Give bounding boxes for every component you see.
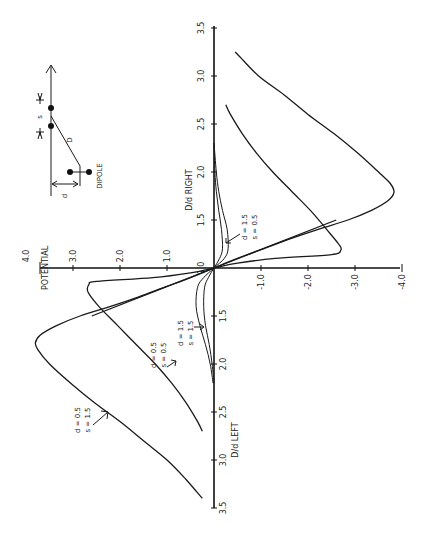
tick-label-potential: -4.0 xyxy=(398,274,407,290)
tick-label-left: 3.0 xyxy=(219,454,228,467)
tick-label-potential: 4.0 xyxy=(22,250,31,263)
tick-label-left: 2.5 xyxy=(219,406,228,419)
annotation-d05-s05: d = 0.5 s = 0.5 xyxy=(150,342,176,368)
tick-label-potential: 1.0 xyxy=(163,250,172,263)
right-axis-label: D/d RIGHT xyxy=(185,169,194,211)
svg-text:D: D xyxy=(66,137,74,142)
tick-label-potential: 3.0 xyxy=(69,250,78,263)
tick-label-left: 1.5 xyxy=(219,310,228,323)
tick-label-potential: -2.0 xyxy=(304,274,313,290)
tick-label-right: 1.5 xyxy=(197,214,206,227)
svg-text:s = 0.5: s = 0.5 xyxy=(160,342,168,367)
svg-text:s: s xyxy=(36,115,44,119)
svg-text:d = 1.5: d = 1.5 xyxy=(241,214,249,240)
svg-text:d = 1.5: d = 1.5 xyxy=(177,320,185,346)
tick-label-right: 3.0 xyxy=(197,70,206,83)
tick-label-left: 3.5 xyxy=(219,502,228,515)
svg-text:d = 0.5: d = 0.5 xyxy=(74,407,82,433)
tick-label-potential: 2.0 xyxy=(116,250,125,263)
svg-text:DIPOLE: DIPOLE xyxy=(96,163,104,189)
svg-text:d: d xyxy=(61,194,69,198)
tick-label-potential: -3.0 xyxy=(351,274,360,290)
left-axis-label: D/d LEFT xyxy=(231,422,240,457)
potential-axis-label: POTENTIAL xyxy=(41,245,50,290)
svg-text:d = 0.5: d = 0.5 xyxy=(150,342,158,368)
potential-chart: 1.01.52.02.53.03.51.52.02.53.03.54.03.02… xyxy=(0,0,424,534)
tick-label-left: 2.0 xyxy=(219,358,228,371)
tick-label-right: 3.5 xyxy=(197,22,206,35)
svg-text:s = 1.5: s = 1.5 xyxy=(187,320,195,345)
dipole-inset: s D d DIPOLE xyxy=(36,65,104,198)
tick-label-right: 2.5 xyxy=(197,118,206,131)
svg-text:s = 1.5: s = 1.5 xyxy=(84,407,92,432)
annotation-d05-s15: d = 0.5 s = 1.5 xyxy=(74,407,108,433)
tick-label-potential: -1.0 xyxy=(257,274,266,290)
annotation-d15-s05: d = 1.5 s = 0.5 xyxy=(226,214,259,243)
tick-label-right: 2.0 xyxy=(197,166,206,179)
svg-text:s = 0.5: s = 0.5 xyxy=(251,214,259,239)
